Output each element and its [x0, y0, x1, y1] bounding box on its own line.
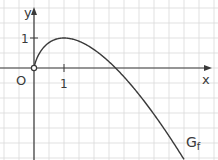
y-tick-label-1: 1: [21, 32, 29, 46]
axes: [0, 7, 212, 160]
x-tick-label-1: 1: [60, 77, 68, 91]
origin-open-circle: [31, 65, 36, 70]
x-axis-label: x: [202, 72, 210, 87]
y-axis-label: y: [24, 5, 32, 20]
origin-label: O: [16, 73, 26, 88]
function-graph: x y O 1 1 Gf: [0, 0, 218, 160]
